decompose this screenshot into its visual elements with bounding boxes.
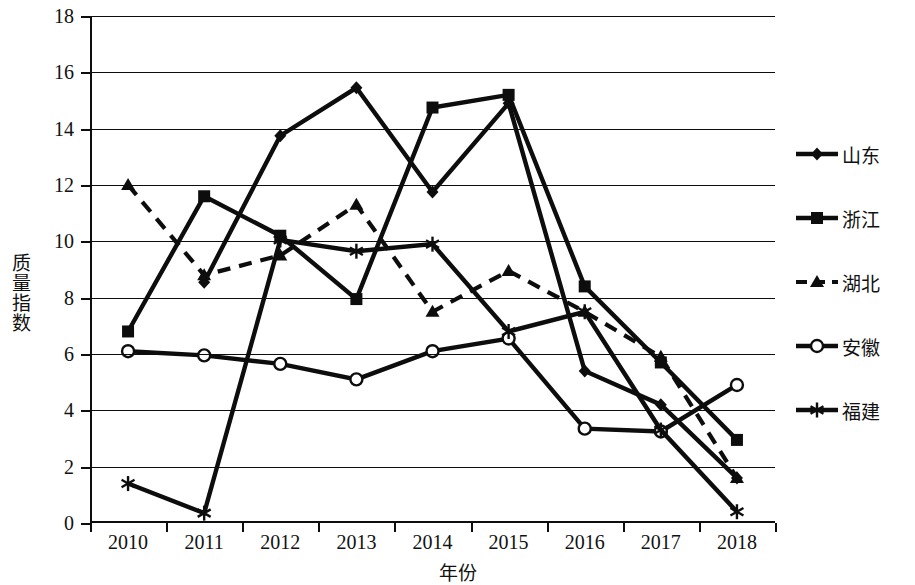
data-point-triangle [502,264,516,276]
x-tick-label: 2017 [641,532,681,552]
line-chart: 质量指数 024681012141618 2010201120122013201… [0,0,915,585]
x-tick-mark [394,523,396,532]
y-tick-mark [81,298,90,300]
series-line [128,185,737,478]
y-tick-mark [81,241,90,243]
legend-item-浙江[interactable]: 浙江 [795,204,913,232]
legend-item-湖北[interactable]: 湖北 [795,268,913,296]
x-tick-label: 2015 [489,532,529,552]
grid-line [90,298,775,299]
legend-label: 山东 [842,141,880,168]
series-line [128,95,737,440]
plot-area [90,16,775,523]
y-tick-mark [81,185,90,187]
x-axis-title: 年份 [0,558,915,585]
data-point-diamond [579,364,591,377]
y-tick-label: 10 [54,231,74,251]
grid-line [90,241,775,242]
grid-line [90,72,775,73]
series-湖北 [121,178,744,483]
y-tick-label: 6 [64,344,74,364]
legend-swatch-circle-open-icon [795,337,839,355]
grid-line [90,467,775,468]
data-point-circle-open [427,345,439,357]
legend: 山东浙江湖北安徽福建 [795,140,913,460]
x-tick-label: 2014 [413,532,453,552]
x-tick-mark [242,523,244,532]
data-point-circle-open [350,373,362,385]
data-point-square [350,293,362,305]
y-tick-mark [81,467,90,469]
y-tick-label: 8 [64,288,74,308]
series-layer [90,16,775,523]
data-point-circle-open [198,349,210,361]
data-point-circle-open [579,423,591,435]
grid-line [90,185,775,186]
data-point-circle-open [274,358,286,370]
legend-label: 安徽 [842,333,880,360]
series-line [204,88,737,478]
y-axis-title: 质量指数 [6,253,34,333]
x-tick-mark [775,523,777,532]
y-tick-mark [81,72,90,74]
x-tick-label: 2018 [717,532,757,552]
legend-item-福建[interactable]: 福建 [795,396,913,424]
x-tick-mark [699,523,701,532]
grid-line [90,354,775,355]
x-tick-mark [471,523,473,532]
data-point-triangle [121,178,135,190]
x-tick-label: 2010 [108,532,148,552]
x-tick-mark [90,523,92,532]
data-point-circle-open [811,340,823,352]
data-point-square [427,102,439,114]
y-tick-label: 2 [64,457,74,477]
data-point-diamond [811,148,823,161]
data-point-square [198,190,210,202]
legend-item-山东[interactable]: 山东 [795,140,913,168]
legend-swatch-square-icon [795,209,839,227]
y-tick-mark [81,129,90,131]
y-tick-mark [81,354,90,356]
y-tick-label: 18 [54,6,74,26]
series-line [128,240,737,513]
legend-label: 福建 [842,397,880,424]
legend-swatch-triangle-icon [795,273,839,291]
x-tick-label: 2013 [336,532,376,552]
legend-swatch-asterisk-icon [795,401,839,419]
x-tick-label: 2012 [260,532,300,552]
data-point-square [503,89,515,101]
data-point-circle-open [731,379,743,391]
legend-label: 浙江 [842,205,880,232]
data-point-square [579,280,591,292]
x-tick-label: 2011 [185,532,224,552]
grid-line [90,410,775,411]
y-tick-label: 0 [64,513,74,533]
data-point-triangle [349,198,363,210]
series-浙江 [122,89,743,446]
legend-label: 湖北 [842,269,880,296]
y-tick-label: 12 [54,175,74,195]
y-tick-mark [81,16,90,18]
x-tick-mark [166,523,168,532]
legend-item-安徽[interactable]: 安徽 [795,332,913,360]
x-tick-mark [547,523,549,532]
series-福建 [122,232,744,520]
y-tick-label: 4 [64,400,74,420]
x-tick-mark [318,523,320,532]
data-point-square [731,434,743,446]
legend-swatch-diamond-icon [795,145,839,163]
data-point-square [811,212,823,224]
y-tick-mark [81,410,90,412]
x-tick-mark [623,523,625,532]
grid-line [90,16,775,17]
data-point-circle-open [122,345,134,357]
grid-line [90,129,775,130]
y-tick-label: 16 [54,62,74,82]
data-point-square [122,325,134,337]
y-tick-mark [81,523,90,525]
y-tick-label: 14 [54,119,74,139]
x-tick-label: 2016 [565,532,605,552]
